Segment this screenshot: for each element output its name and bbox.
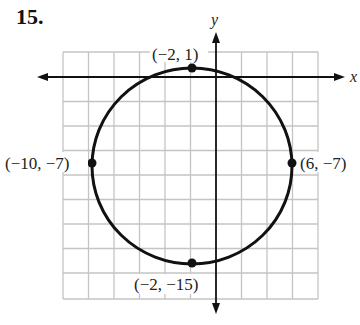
circle-graph: x y (−2, 1) (−10, −7) (6, −7) (−2, −15) [0,0,360,325]
x-axis-label: x [349,68,357,85]
point-right [288,159,297,168]
y-axis-up-arrow-icon [212,32,220,43]
label-top-point: (−2, 1) [152,45,198,64]
x-axis-right-arrow-icon [334,73,345,81]
y-axis-down-arrow-icon [212,303,220,314]
label-bottom-point: (−2, −15) [134,275,199,294]
label-left-point: (−10, −7) [5,154,70,173]
label-right-point: (6, −7) [300,154,346,173]
point-left [88,159,97,168]
point-top [188,64,197,73]
x-axis-left-arrow-icon [37,73,48,81]
y-axis-label: y [209,11,219,29]
circle-curve [92,68,292,264]
point-bottom [188,259,197,268]
